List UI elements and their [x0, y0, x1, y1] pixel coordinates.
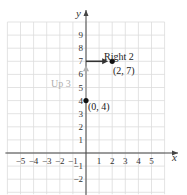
y-axis-label: y [75, 7, 81, 19]
svg-text:−1: −1 [73, 161, 83, 171]
svg-text:−2: −2 [73, 174, 83, 184]
svg-text:6: 6 [79, 69, 84, 79]
movement-arrows [83, 58, 108, 100]
svg-text:5: 5 [79, 83, 84, 93]
up-annotation: Up 3 [51, 78, 71, 89]
svg-text:−3: −3 [42, 156, 52, 166]
svg-text:3: 3 [123, 156, 128, 166]
point-label-0-4: (0, 4) [88, 101, 110, 113]
svg-text:−2: −2 [55, 156, 65, 166]
svg-text:3: 3 [79, 109, 84, 119]
right-annotation: Right 2 [104, 51, 134, 62]
svg-text:7: 7 [79, 56, 84, 66]
svg-text:2: 2 [110, 156, 115, 166]
svg-text:8: 8 [79, 43, 84, 53]
svg-text:5: 5 [149, 156, 154, 166]
svg-text:9: 9 [79, 30, 84, 40]
svg-text:2: 2 [79, 122, 84, 132]
coordinate-plane: −5−4−3−2−112345−2−1123456789 y x Right 2… [0, 0, 187, 195]
point-label-2-7: (2, 7) [113, 65, 135, 77]
svg-text:1: 1 [97, 156, 102, 166]
x-axis-label: x [171, 151, 177, 163]
svg-text:4: 4 [136, 156, 141, 166]
svg-text:4: 4 [79, 96, 84, 106]
svg-text:−5: −5 [16, 156, 26, 166]
svg-text:−4: −4 [29, 156, 39, 166]
svg-text:1: 1 [79, 135, 84, 145]
